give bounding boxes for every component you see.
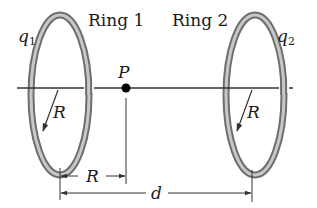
label-dimension-r: R <box>85 166 99 186</box>
ring-2-front-segment <box>279 82 289 95</box>
label-radius-ring-1: R <box>52 102 66 122</box>
ring-1 <box>31 15 89 175</box>
label-q1: q1 <box>18 26 36 48</box>
label-radius-ring-2: R <box>246 102 260 122</box>
label-q2-sub: 2 <box>288 35 295 48</box>
label-point-p: P <box>117 62 130 82</box>
label-q1-sub: 1 <box>29 35 36 48</box>
label-q2-main: q <box>277 26 288 46</box>
label-q1-main: q <box>18 26 29 46</box>
point-p <box>122 84 131 93</box>
label-ring-2: Ring 2 <box>172 10 228 30</box>
ring-1-front-segment <box>84 82 94 95</box>
label-ring-1: Ring 1 <box>88 10 144 30</box>
two-rings-diagram: Ring 1 Ring 2 q1 q2 P R R R d <box>0 0 317 208</box>
ring-2 <box>226 15 284 175</box>
label-q2: q2 <box>277 26 295 48</box>
label-dimension-d: d <box>151 183 162 203</box>
